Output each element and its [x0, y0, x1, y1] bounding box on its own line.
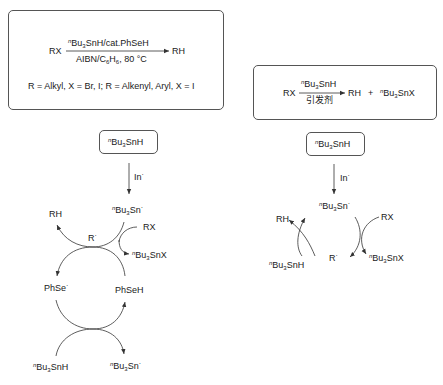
right-arc-sn-to-r — [350, 217, 360, 257]
left-arc-to-phse — [57, 247, 93, 276]
right-arc-to-rh — [289, 220, 315, 256]
left-arc-phse-down — [56, 300, 93, 329]
left-arc-to-sn-bottom — [93, 329, 124, 354]
right-arc-snh-up — [298, 218, 305, 256]
left-arc-from-phseh — [93, 247, 125, 276]
left-arc-r-to-rh — [57, 225, 93, 247]
right-arc-rx-to-snx — [362, 217, 379, 254]
left-arc-snx-out — [119, 240, 129, 254]
reaction-arrows — [0, 0, 443, 385]
left-arc-up-to-phseh — [93, 302, 125, 329]
left-arc-from-snh — [56, 329, 93, 356]
